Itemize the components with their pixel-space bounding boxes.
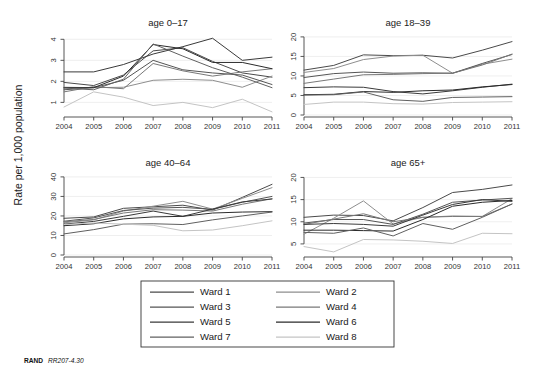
- legend-item-label: Ward 1: [200, 286, 231, 297]
- legend-item-label: Ward 2: [326, 286, 357, 297]
- x-tick-label: 2004: [296, 122, 313, 131]
- panel-title: age 18–39: [386, 17, 431, 28]
- y-tick-label: 15: [289, 195, 298, 203]
- legend-item-label: Ward 3: [200, 301, 231, 312]
- x-tick-label: 2008: [174, 122, 191, 131]
- x-tick-label: 2008: [174, 262, 191, 271]
- legend-item-label: Ward 4: [326, 301, 357, 312]
- multi-panel-line-chart: Rate per 1,000 population age 0–17123420…: [0, 0, 534, 382]
- x-tick-label: 2011: [264, 262, 280, 271]
- y-axis-label: Rate per 1,000 population: [12, 84, 24, 205]
- x-tick-label: 2009: [204, 122, 221, 131]
- y-tick-label: 0: [289, 113, 298, 117]
- x-tick-label: 2007: [385, 122, 402, 131]
- footer-report-id: RR207-4.30: [48, 357, 84, 364]
- y-tick-label: 4: [49, 37, 58, 41]
- x-tick-label: 2008: [414, 122, 431, 131]
- x-tick-label: 2007: [145, 122, 162, 131]
- x-tick-label: 2009: [444, 122, 461, 131]
- x-tick-label: 2010: [474, 262, 491, 271]
- y-tick-label: 20: [49, 212, 58, 220]
- y-tick-label: 10: [289, 218, 298, 226]
- x-tick-label: 2007: [385, 262, 402, 271]
- y-tick-label: 30: [49, 192, 58, 200]
- y-tick-label: 20: [289, 33, 298, 41]
- x-tick-label: 2005: [85, 122, 102, 131]
- y-tick-label: 40: [49, 173, 58, 181]
- x-tick-label: 2006: [115, 122, 132, 131]
- y-tick-label: 10: [49, 231, 58, 239]
- x-tick-label: 2004: [56, 262, 73, 271]
- legend: Ward 1Ward 2Ward 3Ward 4Ward 5Ward 6Ward…: [141, 281, 394, 347]
- y-tick-label: 1: [49, 100, 58, 104]
- x-tick-label: 2009: [204, 262, 221, 271]
- x-tick-label: 2006: [115, 262, 132, 271]
- legend-item-label: Ward 6: [326, 316, 357, 327]
- x-tick-label: 2011: [264, 122, 280, 131]
- legend-item-label: Ward 8: [326, 331, 357, 342]
- y-tick-label: 3: [49, 58, 58, 62]
- y-tick-label: 20: [289, 173, 298, 181]
- x-tick-label: 2006: [355, 122, 372, 131]
- legend-item-label: Ward 5: [200, 316, 231, 327]
- x-tick-label: 2006: [355, 262, 372, 271]
- footer-rand-logo: RAND: [24, 357, 43, 364]
- x-tick-label: 2005: [325, 262, 342, 271]
- y-tick-label: 15: [289, 52, 298, 60]
- legend-item-label: Ward 7: [200, 331, 231, 342]
- y-tick-label: 5: [289, 242, 298, 246]
- x-tick-label: 2005: [325, 122, 342, 131]
- x-tick-label: 2005: [85, 262, 102, 271]
- x-tick-label: 2007: [145, 262, 162, 271]
- y-tick-label: 0: [49, 253, 58, 257]
- x-tick-label: 2008: [414, 262, 431, 271]
- x-tick-label: 2004: [296, 262, 313, 271]
- x-tick-label: 2010: [474, 122, 491, 131]
- x-tick-label: 2011: [504, 262, 520, 271]
- y-tick-label: 5: [289, 93, 298, 97]
- panel-title: age 0–17: [148, 17, 188, 28]
- panel-title: age 65+: [391, 157, 426, 168]
- y-tick-label: 10: [289, 72, 298, 80]
- panel-title: age 40–64: [146, 157, 191, 168]
- x-tick-label: 2010: [234, 122, 251, 131]
- x-tick-label: 2011: [504, 122, 520, 131]
- x-tick-label: 2009: [444, 262, 461, 271]
- x-tick-label: 2004: [56, 122, 73, 131]
- x-tick-label: 2010: [234, 262, 251, 271]
- y-tick-label: 2: [49, 79, 58, 83]
